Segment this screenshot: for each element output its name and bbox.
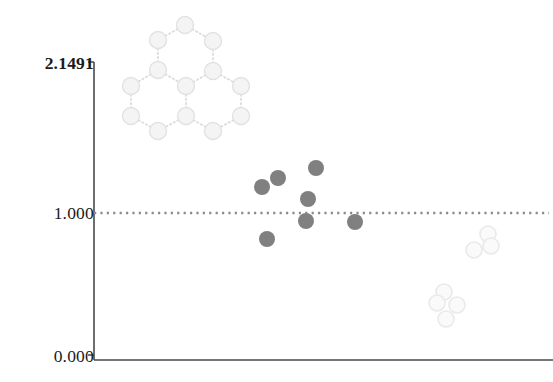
molecule-atom	[150, 32, 167, 49]
scatter-figure: 2.1491 1.000 0.000	[0, 0, 553, 382]
data-point-filled	[254, 179, 270, 195]
molecule-atom	[205, 63, 222, 80]
data-point-open	[449, 297, 465, 313]
molecule-atom	[205, 33, 222, 50]
molecule-nodes	[123, 17, 250, 140]
molecule-atom	[233, 108, 250, 125]
data-point-open	[483, 238, 499, 254]
molecule-atom	[178, 108, 195, 125]
molecule-atom	[177, 17, 194, 34]
data-point-filled	[270, 170, 286, 186]
molecule-atom	[150, 62, 167, 79]
molecule-atom	[150, 123, 167, 140]
data-point-open	[429, 295, 445, 311]
data-point-filled	[347, 214, 363, 230]
data-points-filled	[254, 160, 363, 247]
y-axis-tick-label-middle: 1.000	[54, 203, 94, 224]
data-point-open	[466, 242, 482, 258]
data-points-open	[429, 226, 499, 327]
data-point-filled	[300, 191, 316, 207]
axis-lines	[94, 62, 553, 360]
y-axis-tick-label-bottom: 0.000	[54, 346, 94, 367]
molecule-atom	[123, 108, 140, 125]
data-point-filled	[308, 160, 324, 176]
molecule-atom	[233, 78, 250, 95]
molecule-atom	[178, 78, 195, 95]
data-point-filled	[259, 231, 275, 247]
y-axis-tick-label-top: 2.1491	[45, 53, 94, 74]
data-point-open	[438, 311, 454, 327]
molecule-atom	[123, 78, 140, 95]
molecule-atom	[205, 123, 222, 140]
data-point-filled	[298, 213, 314, 229]
